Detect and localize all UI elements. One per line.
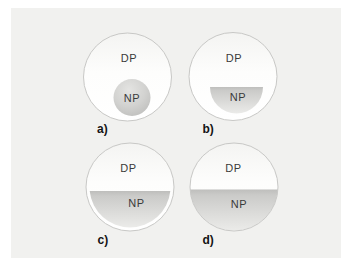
np-label-a: NP	[124, 92, 140, 104]
figure-panel-background	[11, 8, 341, 258]
panel-caption-b: b)	[203, 122, 214, 136]
np-label-b: NP	[230, 91, 246, 103]
dp-label-a: DP	[121, 52, 137, 64]
panel-caption-a: a)	[97, 122, 108, 136]
np-label-d: NP	[231, 198, 247, 210]
np-label-c: NP	[128, 197, 144, 209]
panel-caption-c: c)	[98, 233, 109, 247]
panel-caption-d: d)	[203, 233, 214, 247]
dp-label-b: DP	[226, 52, 242, 64]
figure-canvas: DP NP a) DP NP b) DP NP c) DP NP d)	[0, 0, 355, 266]
dp-label-d: DP	[225, 162, 241, 174]
dp-label-c: DP	[120, 162, 136, 174]
